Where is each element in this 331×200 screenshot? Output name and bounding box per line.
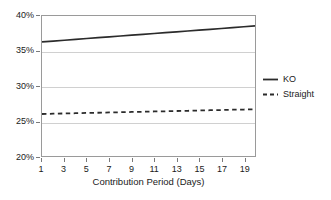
y-tick-label: 20% xyxy=(16,153,34,162)
x-tick-mark xyxy=(41,158,42,162)
x-tick-mark xyxy=(177,158,178,162)
legend-label-straight: Straight xyxy=(283,90,314,99)
y-tick-label: 25% xyxy=(16,117,34,126)
y-tick-label: 35% xyxy=(16,46,34,55)
x-tick-label: 7 xyxy=(106,165,111,174)
x-tick-label: 15 xyxy=(194,165,204,174)
y-axis: 40%35%30%25%20% xyxy=(0,0,38,200)
series-line-ko xyxy=(42,26,255,42)
legend-swatch-solid-line-icon xyxy=(263,75,278,84)
x-tick-label: 17 xyxy=(217,165,227,174)
legend-entry-straight[interactable]: Straight xyxy=(263,87,331,102)
legend-entry-ko[interactable]: KO xyxy=(263,72,331,87)
x-tick-label: 5 xyxy=(84,165,89,174)
legend: KO Straight xyxy=(263,72,331,102)
y-tick-label: 30% xyxy=(16,82,34,91)
x-axis: 135791113151719 xyxy=(41,158,256,178)
x-tick-label: 19 xyxy=(240,165,250,174)
y-tick-mark xyxy=(36,157,40,158)
plot-area xyxy=(41,15,256,157)
x-axis-title: Contribution Period (Days) xyxy=(41,176,256,188)
x-tick-label: 3 xyxy=(61,165,66,174)
x-tick-mark xyxy=(86,158,87,162)
series-layer xyxy=(42,16,255,156)
x-tick-label: 1 xyxy=(38,165,43,174)
x-tick-mark xyxy=(132,158,133,162)
gridline xyxy=(42,123,255,124)
y-tick-mark xyxy=(36,86,40,87)
x-tick-label: 13 xyxy=(172,165,182,174)
line-chart: 40%35%30%25%20% 135791113151719 Contribu… xyxy=(0,0,331,200)
legend-swatch-dashed-line-icon xyxy=(263,90,278,99)
legend-label-ko: KO xyxy=(283,75,296,84)
x-tick-label: 9 xyxy=(129,165,134,174)
x-tick-mark xyxy=(64,158,65,162)
y-tick-mark xyxy=(36,51,40,52)
x-tick-label: 11 xyxy=(149,165,158,174)
y-tick-label: 40% xyxy=(16,11,34,20)
gridline xyxy=(42,52,255,53)
x-tick-mark xyxy=(222,158,223,162)
y-tick-mark xyxy=(36,122,40,123)
y-tick-mark xyxy=(36,15,40,16)
x-tick-mark xyxy=(154,158,155,162)
x-tick-mark xyxy=(109,158,110,162)
gridline xyxy=(42,87,255,88)
series-line-straight xyxy=(42,109,255,114)
x-tick-mark xyxy=(199,158,200,162)
x-tick-mark xyxy=(245,158,246,162)
